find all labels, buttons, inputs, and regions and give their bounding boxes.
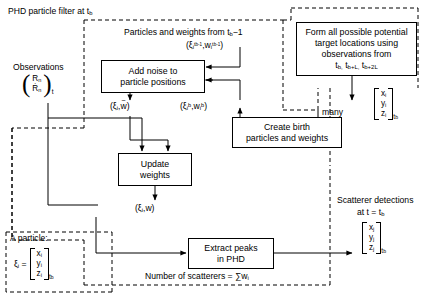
- phd-particle-filter-diagram: PHD particle filter at tb Particles and …: [0, 0, 423, 302]
- detections-row-2: zj: [369, 243, 374, 253]
- potential-location-vector: xi yi zi tb: [374, 88, 398, 120]
- particle-lhs: ξi =: [14, 259, 27, 269]
- noised-to-update: [130, 116, 168, 151]
- updated-particles-notation: (ξi,w): [135, 203, 154, 213]
- box-update-weights[interactable]: Update weights: [118, 153, 192, 186]
- scatterer-detections-time: at t = tb: [357, 208, 384, 218]
- observations-vector: ( Rn R·n ) t: [22, 74, 53, 95]
- potential-time-subscript: tb: [393, 113, 398, 120]
- particle-row-1: yi: [37, 259, 42, 269]
- box-create-birth-line2: particles and weights: [246, 133, 328, 143]
- detections-row-1: yj: [369, 233, 374, 243]
- potential-row-0: xi: [381, 89, 386, 99]
- observations-row-1: R·n: [32, 84, 41, 94]
- detections-vector: xj yj zj tb: [362, 222, 386, 254]
- box-form-locations-times: tb, tb+L, tb+2L: [335, 60, 377, 72]
- to-extract-peaks: [96, 217, 186, 253]
- box-add-noise[interactable]: Add noise to particle positions: [101, 60, 205, 93]
- particle-time-subscript: tb: [49, 273, 54, 280]
- detections-time-subscript: tb: [381, 247, 386, 254]
- box-extract-peaks-line2: in PHD: [217, 254, 245, 264]
- number-of-scatterers-label: Number of scatterers = ∑wi: [145, 272, 249, 282]
- observations-paren-left: (: [22, 74, 30, 95]
- box-form-locations-line1: Form all possible potential: [305, 27, 407, 38]
- noised-particles-notation: (ξi,w~): [110, 101, 130, 111]
- box-form-locations[interactable]: Form all possible potential target locat…: [296, 22, 417, 76]
- potential-row-2: zi: [381, 109, 386, 119]
- box-extract-peaks-line1: Extract peaks: [204, 243, 257, 253]
- observations-time-subscript: t: [52, 88, 54, 95]
- box-extract-peaks[interactable]: Extract peaks in PHD: [188, 238, 274, 269]
- box-create-birth[interactable]: Create birth particles and weights: [232, 117, 342, 148]
- observations-paren-right: ): [43, 74, 51, 95]
- scatterer-detections-label: Scatterer detections: [337, 196, 413, 206]
- particle-row-0: xi: [37, 249, 42, 259]
- box-add-noise-line1: Add noise to: [129, 66, 178, 76]
- particle-row-2: zi: [37, 269, 42, 279]
- birth-particles-notation: (ξib,wib): [180, 101, 207, 111]
- observations-label: Observations: [13, 63, 64, 73]
- box-update-weights-line1: Update: [141, 159, 169, 169]
- prior-particles-notation: (ξitb-1,witb-1): [186, 40, 223, 50]
- box-update-weights-line2: weights: [140, 170, 170, 180]
- obs-to-right: [48, 118, 98, 205]
- detections-row-0: xj: [369, 223, 374, 233]
- prior-particles-label: Particles and weights from tb−1: [124, 28, 243, 38]
- box-add-noise-line2: particle positions: [120, 77, 186, 87]
- box-form-locations-line3: observations from: [322, 49, 392, 60]
- diagram-title: PHD particle filter at tb: [8, 7, 92, 17]
- a-particle-label: A particle:: [10, 234, 48, 244]
- box-create-birth-line1: Create birth: [264, 122, 310, 132]
- particle-definition: ξi = xi yi zi tb: [14, 248, 54, 280]
- box-form-locations-line2: target locations using: [315, 38, 398, 49]
- potential-row-1: yi: [381, 99, 386, 109]
